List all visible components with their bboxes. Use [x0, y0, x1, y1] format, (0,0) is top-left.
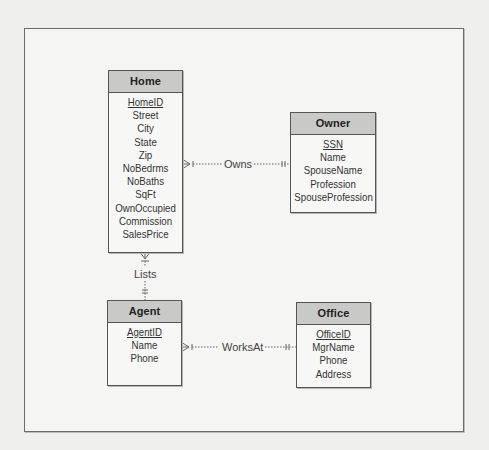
- attribute: City: [112, 122, 179, 135]
- attribute: SpouseProfession: [294, 191, 371, 204]
- attribute: Name: [294, 151, 371, 164]
- entity-agent-title: Agent: [108, 301, 181, 323]
- entity-home-title: Home: [109, 71, 182, 93]
- entity-owner[interactable]: Owner SSN Name SpouseName Profession Spo…: [290, 112, 376, 213]
- entity-agent-attributes: AgentID Name Phone: [111, 323, 178, 366]
- attribute: NoBaths: [112, 175, 179, 188]
- attribute: NoBedrms: [112, 162, 179, 175]
- attribute: Street: [112, 109, 179, 122]
- attribute-primary-key: OfficeID: [300, 328, 367, 341]
- attribute: Name: [111, 339, 178, 352]
- attribute: MgrName: [300, 341, 367, 354]
- attribute: OwnOccupied: [112, 202, 179, 215]
- relationship-label-owns: Owns: [222, 158, 254, 170]
- entity-home[interactable]: Home HomeID Street City State Zip NoBedr…: [108, 70, 183, 253]
- entity-home-attributes: HomeID Street City State Zip NoBedrms No…: [112, 93, 179, 241]
- attribute: SalesPrice: [112, 228, 179, 241]
- entity-office-title: Office: [297, 303, 370, 325]
- relationship-lines: [0, 0, 489, 450]
- entity-owner-attributes: SSN Name SpouseName Profession SpousePro…: [294, 135, 371, 204]
- attribute-primary-key: AgentID: [111, 326, 178, 339]
- entity-office[interactable]: Office OfficeID MgrName Phone Address: [296, 302, 371, 388]
- attribute: SpouseName: [294, 164, 371, 177]
- attribute: Zip: [112, 149, 179, 162]
- attribute: SqFt: [112, 188, 179, 201]
- attribute: Address: [300, 368, 367, 381]
- attribute-primary-key: HomeID: [112, 96, 179, 109]
- entity-agent[interactable]: Agent AgentID Name Phone: [107, 300, 182, 386]
- relationship-label-worksat: WorksAt: [220, 341, 265, 353]
- attribute: Profession: [294, 178, 371, 191]
- attribute: Phone: [111, 352, 178, 365]
- relationship-label-lists: Lists: [132, 268, 159, 280]
- attribute-primary-key: SSN: [294, 138, 371, 151]
- attribute: Phone: [300, 354, 367, 367]
- entity-office-attributes: OfficeID MgrName Phone Address: [300, 325, 367, 381]
- attribute: State: [112, 136, 179, 149]
- attribute: Commission: [112, 215, 179, 228]
- entity-owner-title: Owner: [291, 113, 375, 135]
